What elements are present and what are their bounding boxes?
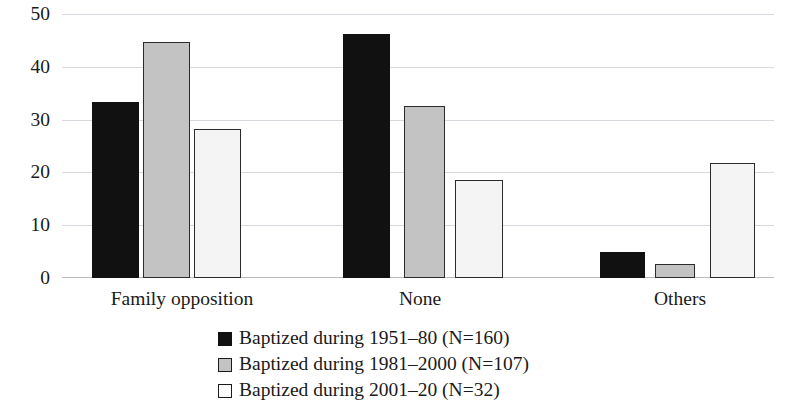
y-axis-tick-40: 40 <box>0 57 50 77</box>
bar-others-1981-2000 <box>655 264 695 278</box>
bar-others-2001-20 <box>710 163 755 278</box>
bar-others-1951-80 <box>600 252 645 278</box>
bar-none-1951-80 <box>343 34 390 278</box>
legend-item-2001-20: Baptized during 2001–20 (N=32) <box>0 377 802 403</box>
legend-swatch-gray-square-icon <box>218 358 232 372</box>
legend-swatch-white-square-icon <box>218 384 232 398</box>
legend-label-1981-2000: Baptized during 1981–2000 (N=107) <box>239 354 529 374</box>
bar-family-opposition-1951-80 <box>92 102 139 278</box>
chart-legend: Baptized during 1951–80 (N=160) Baptized… <box>0 325 802 403</box>
y-axis-tick-50: 50 <box>0 4 50 24</box>
y-axis-tick-10: 10 <box>0 215 50 235</box>
x-axis-label-family-opposition: Family opposition <box>62 289 302 309</box>
bar-none-1981-2000 <box>404 106 445 278</box>
legend-item-1981-2000: Baptized during 1981–2000 (N=107) <box>0 351 802 377</box>
x-axis-label-none: None <box>340 289 500 309</box>
plot-area <box>62 14 774 278</box>
gridline-50 <box>62 14 774 15</box>
y-axis-tick-20: 20 <box>0 163 50 183</box>
bar-family-opposition-1981-2000 <box>143 42 190 279</box>
x-axis-label-others: Others <box>600 289 760 309</box>
legend-item-1951-80: Baptized during 1951–80 (N=160) <box>0 325 802 351</box>
bar-family-opposition-2001-20 <box>194 129 241 278</box>
legend-swatch-black-square-icon <box>218 332 232 346</box>
legend-label-2001-20: Baptized during 2001–20 (N=32) <box>239 380 500 400</box>
bar-chart-figure: 50 40 30 20 10 0 Family opposition None … <box>0 0 802 411</box>
y-axis-tick-30: 30 <box>0 110 50 130</box>
y-axis-labels: 50 40 30 20 10 0 <box>0 14 50 278</box>
y-axis-tick-0: 0 <box>0 268 50 288</box>
bar-none-2001-20 <box>455 180 503 278</box>
legend-label-1951-80: Baptized during 1951–80 (N=160) <box>239 328 509 348</box>
